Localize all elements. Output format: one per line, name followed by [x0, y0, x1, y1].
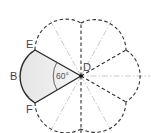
label-E: E — [26, 38, 33, 50]
label-F: F — [26, 103, 33, 115]
shaded-sector — [20, 50, 81, 103]
center-point — [79, 74, 83, 78]
guide-line — [81, 76, 112, 132]
label-B: B — [10, 70, 17, 82]
angle-label: 60° — [56, 71, 69, 81]
label-D: D — [83, 61, 91, 73]
flower-sector-diagram: D E B F 60° — [0, 0, 151, 133]
